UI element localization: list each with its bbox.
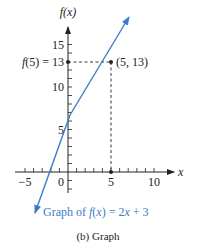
- x-tick-label: 10: [148, 175, 160, 189]
- y-axis-label: f(x): [60, 5, 77, 19]
- function-line-lower: [35, 115, 70, 213]
- y-tick-label: 10: [52, 80, 64, 94]
- x-tick-label: 0: [58, 175, 64, 189]
- point-5-13: [109, 60, 113, 64]
- figure-caption: (b) Graph: [76, 230, 120, 243]
- x-axis-label: x: [177, 165, 184, 179]
- f5-label: f(5) = 13: [22, 55, 64, 69]
- function-legend: Graph of f(x) = 2x + 3: [43, 205, 149, 219]
- function-graph: f(x) x −5 0 5 10 5 10 15 f(5) = 13 (5, 1…: [0, 0, 197, 243]
- point-0-13: [66, 60, 70, 64]
- point-5-0: [109, 170, 113, 174]
- point-label: (5, 13): [116, 55, 148, 69]
- y-tick-label: 5: [58, 123, 64, 137]
- y-tick-label: 15: [52, 38, 64, 52]
- x-tick-label: −5: [19, 175, 32, 189]
- x-tick-label: 5: [108, 175, 114, 189]
- x-axis-ticks: [25, 168, 154, 172]
